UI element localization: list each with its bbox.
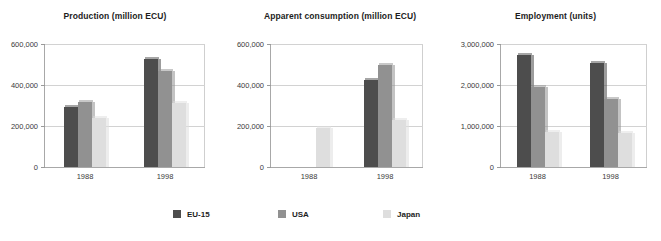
- bar-face: [392, 120, 406, 167]
- bar-face: [364, 80, 378, 167]
- bar-top-edge: [619, 131, 633, 133]
- plot-area-employment: 01,000,0002,000,0003,000,000 19881998: [500, 44, 647, 168]
- legend-item-japan[interactable]: Japan: [383, 210, 488, 219]
- bar-japan-1988: [545, 132, 559, 167]
- multi-panel-bar-chart-figure: Production (million ECU) 0200,000400,000…: [0, 0, 661, 241]
- bar-top-edge: [145, 57, 159, 59]
- bar-face: [78, 102, 92, 167]
- bar-japan-1988: [316, 128, 330, 167]
- bar-side-edge: [186, 103, 189, 167]
- bar-top-edge: [159, 69, 173, 71]
- bars-employment: 19881998: [501, 44, 647, 167]
- bar-top-edge: [591, 61, 605, 63]
- legend-item-usa[interactable]: USA: [278, 210, 383, 219]
- bar-eu-15-1988: [517, 55, 531, 167]
- bars-production: 19881998: [45, 44, 205, 167]
- bar-top-edge: [379, 63, 393, 65]
- y-axis-tick-label: 0: [260, 163, 264, 172]
- bar-usa-1998: [378, 65, 392, 168]
- y-axis-tick-label: 0: [34, 163, 38, 172]
- legend-label: Japan: [397, 210, 420, 219]
- x-axis-tick-label: 1998: [157, 172, 174, 181]
- bars-apparent-consumption: 19881998: [271, 44, 423, 167]
- bar-face: [316, 128, 330, 167]
- y-axis-tick: [267, 167, 271, 168]
- chart-panel-production: Production (million ECU) 0200,000400,000…: [0, 0, 230, 200]
- plot-area-apparent-consumption: 0200,000400,000600,000 19881998: [270, 44, 423, 168]
- y-axis-tick: [41, 167, 45, 168]
- x-axis-tick-label: 1988: [77, 172, 94, 181]
- chart-title-apparent-consumption: Apparent consumption (million ECU): [230, 11, 450, 21]
- bar-top-edge: [173, 101, 187, 103]
- bar-eu-15-1998: [144, 59, 158, 167]
- bar-side-edge: [559, 132, 562, 167]
- chart-panels: Production (million ECU) 0200,000400,000…: [0, 0, 661, 200]
- bar-side-edge: [632, 133, 635, 167]
- bar-face: [517, 55, 531, 167]
- bar-top-edge: [532, 85, 546, 87]
- bar-face: [92, 118, 106, 167]
- bar-usa-1988: [531, 87, 545, 167]
- bar-usa-1998: [158, 71, 172, 167]
- chart-title-employment: Employment (units): [450, 11, 661, 21]
- bar-japan-1988: [92, 118, 106, 167]
- bar-top-edge: [518, 53, 532, 55]
- y-axis-tick-label: 2,000,000: [461, 81, 494, 90]
- bar-top-edge: [546, 130, 560, 132]
- chart-legend: EU-15USAJapan: [0, 204, 661, 224]
- bar-face: [172, 103, 186, 167]
- bar-face: [618, 133, 632, 167]
- bar-eu-15-1988: [64, 107, 78, 167]
- y-axis-tick-label: 0: [490, 163, 494, 172]
- bar-top-edge: [79, 100, 93, 102]
- bar-face: [378, 65, 392, 168]
- chart-title-production: Production (million ECU): [0, 11, 230, 21]
- y-axis-tick-label: 400,000: [11, 81, 38, 90]
- bar-usa-1998: [604, 99, 618, 167]
- bar-side-edge: [330, 128, 333, 167]
- bar-face: [64, 107, 78, 167]
- legend-swatch-eu15: [173, 210, 181, 218]
- bar-japan-1998: [618, 133, 632, 167]
- bar-top-edge: [93, 116, 107, 118]
- bar-japan-1998: [392, 120, 406, 167]
- bar-top-edge: [605, 97, 619, 99]
- y-axis-tick-label: 1,000,000: [461, 122, 494, 131]
- bar-eu-15-1998: [364, 80, 378, 167]
- bar-top-edge: [393, 118, 407, 120]
- bar-face: [158, 71, 172, 167]
- x-axis-tick-label: 1998: [602, 172, 619, 181]
- bar-top-edge: [365, 78, 379, 80]
- bar-face: [531, 87, 545, 167]
- y-axis-tick-label: 200,000: [11, 122, 38, 131]
- bar-eu-15-1998: [590, 63, 604, 167]
- legend-label: USA: [292, 210, 309, 219]
- y-axis-tick-label: 200,000: [237, 122, 264, 131]
- y-axis-tick-label: 600,000: [11, 40, 38, 49]
- x-axis-tick-label: 1988: [529, 172, 546, 181]
- bar-japan-1998: [172, 103, 186, 167]
- bar-face: [604, 99, 618, 167]
- x-axis-tick-label: 1998: [377, 172, 394, 181]
- bar-face: [144, 59, 158, 167]
- chart-panel-employment: Employment (units) 01,000,0002,000,0003,…: [450, 0, 661, 200]
- x-axis-tick-label: 1988: [301, 172, 318, 181]
- bar-side-edge: [106, 118, 109, 167]
- bar-usa-1988: [78, 102, 92, 167]
- y-axis-tick-label: 600,000: [237, 40, 264, 49]
- bar-face: [590, 63, 604, 167]
- bar-top-edge: [65, 105, 79, 107]
- legend-swatch-japan: [383, 210, 391, 218]
- y-axis-tick: [497, 167, 501, 168]
- bar-side-edge: [406, 120, 409, 167]
- chart-panel-apparent-consumption: Apparent consumption (million ECU) 0200,…: [230, 0, 450, 200]
- bar-face: [545, 132, 559, 167]
- legend-swatch-usa: [278, 210, 286, 218]
- y-axis-tick-label: 400,000: [237, 81, 264, 90]
- bar-top-edge: [317, 126, 331, 128]
- legend-label: EU-15: [187, 210, 210, 219]
- y-axis-tick-label: 3,000,000: [461, 40, 494, 49]
- plot-area-production: 0200,000400,000600,000 19881998: [44, 44, 205, 168]
- legend-item-eu-15[interactable]: EU-15: [173, 210, 278, 219]
